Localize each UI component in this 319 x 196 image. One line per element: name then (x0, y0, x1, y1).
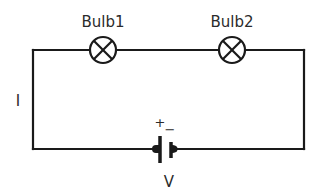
bulb2-lamp-icon (219, 37, 245, 63)
circuit-diagram: Bulb1 Bulb2 + − V I (0, 0, 319, 196)
current-label: I (16, 92, 20, 110)
battery-cell-icon (152, 136, 178, 163)
voltage-label: V (164, 173, 175, 191)
bulb1-lamp-icon (90, 37, 116, 63)
battery-negative-sign: − (165, 122, 176, 137)
bulb1-label: Bulb1 (81, 13, 124, 31)
bulb2-label: Bulb2 (210, 13, 253, 31)
